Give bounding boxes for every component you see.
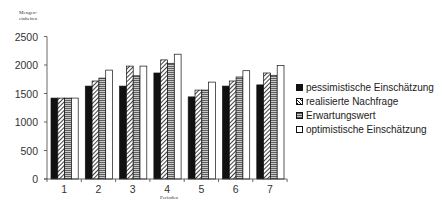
x-tick-label: 2 (88, 183, 108, 195)
x-axis-label: Perioden (157, 195, 181, 200)
y-tick-label: 2000 (0, 59, 38, 71)
x-tick-label: 6 (226, 183, 246, 195)
bar-chart: Mengen- einheiten 05001000150020002500 1… (0, 0, 442, 210)
bar (223, 86, 230, 179)
bar (120, 86, 127, 179)
bar (188, 97, 195, 179)
legend-label: pessimistische Einschätzung (306, 82, 434, 93)
x-tick-label: 7 (260, 183, 280, 195)
bar (229, 81, 236, 179)
bar (133, 76, 140, 179)
x-tick-label: 4 (157, 183, 177, 195)
bar (65, 98, 72, 179)
legend-label: realisierte Nachfrage (306, 96, 398, 107)
bar (209, 82, 216, 179)
legend-swatch-icon (296, 98, 303, 105)
legend-item: realisierte Nachfrage (296, 94, 434, 108)
legend-item: optimistische Einschätzung (296, 122, 434, 136)
x-tick-label: 5 (191, 183, 211, 195)
bar (202, 90, 209, 179)
bar (85, 86, 92, 179)
bar (195, 90, 202, 179)
legend-swatch-icon (296, 112, 303, 119)
bar (174, 54, 181, 179)
legend-swatch-icon (296, 84, 303, 91)
bar (140, 66, 147, 179)
y-tick-label: 1000 (0, 116, 38, 128)
bar (264, 73, 271, 179)
bar (243, 71, 250, 179)
legend: pessimistische Einschätzungrealisierte N… (296, 80, 434, 136)
bar (154, 73, 161, 179)
bars-group (51, 54, 284, 179)
bar (92, 81, 99, 179)
legend-item: pessimistische Einschätzung (296, 80, 434, 94)
y-tick-label: 2500 (0, 31, 38, 43)
y-tick-label: 0 (0, 173, 38, 185)
bar (168, 63, 175, 179)
x-tick-label: 3 (123, 183, 143, 195)
bar (51, 98, 58, 179)
bar (161, 60, 168, 179)
bar (71, 98, 78, 179)
legend-label: Erwartungswert (306, 110, 375, 121)
y-tick-label: 1500 (0, 88, 38, 100)
legend-item: Erwartungswert (296, 108, 434, 122)
bar (126, 66, 133, 179)
bar (99, 78, 106, 179)
bar (277, 66, 284, 179)
x-tick-label: 1 (54, 183, 74, 195)
y-axis-unit-label: Mengen- einheiten (19, 10, 37, 22)
bar (58, 98, 65, 179)
legend-label: optimistische Einschätzung (306, 124, 427, 135)
y-axis-unit-line-2: einheiten (19, 16, 37, 22)
bar (236, 77, 243, 179)
legend-swatch-icon (296, 126, 303, 133)
bar (257, 85, 264, 179)
y-tick-label: 500 (0, 145, 38, 157)
bar (106, 70, 113, 179)
bar (270, 75, 277, 179)
